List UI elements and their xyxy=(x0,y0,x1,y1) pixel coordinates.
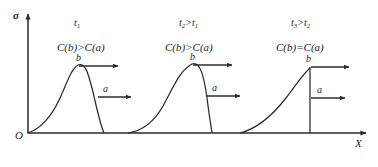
peak-label-b-t1: b xyxy=(76,53,81,63)
side-label-a-t3: a xyxy=(317,85,322,95)
curve-t2 xyxy=(128,64,212,133)
condition-label-t2: C(b)>C(a) xyxy=(165,42,213,53)
side-label-a-t1: a xyxy=(103,84,108,94)
condition-label-t3: C(b)=C(a) xyxy=(276,42,324,53)
origin-label: O xyxy=(15,130,23,141)
time-label-t1: t1 xyxy=(74,18,80,28)
y-axis-label: σ xyxy=(13,10,19,21)
peak-label-b-t2: b xyxy=(190,52,195,62)
peak-label-b-t3: b xyxy=(306,54,311,64)
stress-distribution-figure: σ X O t1 C(b)>C(a) b a t2>t1 C(b)>C(a) b… xyxy=(0,0,378,167)
time-label-t2: t2>t1 xyxy=(179,18,198,28)
side-label-a-t2: a xyxy=(212,83,217,93)
curve-t3 xyxy=(240,68,310,133)
x-axis-label: X xyxy=(355,138,362,149)
curve-t1 xyxy=(27,64,104,133)
time-label-t3: t3>t2 xyxy=(291,18,310,28)
